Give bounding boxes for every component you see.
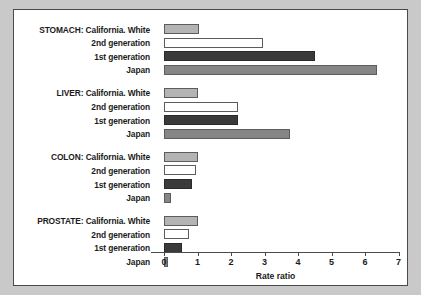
x-tick-5 <box>332 252 333 256</box>
bar-colon-0 <box>164 152 198 162</box>
x-tick-6 <box>365 252 366 256</box>
bar-label-prostate-0: PROSTATE: California. White <box>16 216 150 226</box>
x-tick-label-3: 3 <box>255 257 275 267</box>
x-tick-label-4: 4 <box>288 257 308 267</box>
bar-label-liver-0: LIVER: California. White <box>16 88 150 98</box>
x-tick-2 <box>231 252 232 256</box>
x-tick-4 <box>298 252 299 256</box>
bar-label-colon-2: 1st generation <box>16 180 150 190</box>
bar-stomach-1 <box>164 38 263 48</box>
bar-colon-2 <box>164 179 192 189</box>
x-tick-1 <box>198 252 199 256</box>
bar-liver-2 <box>164 115 238 125</box>
bar-label-prostate-3: Japan <box>16 257 150 267</box>
category-label-column: STOMACH: California. White2nd generation… <box>14 10 150 285</box>
bar-label-liver-3: Japan <box>16 129 150 139</box>
bar-colon-3 <box>164 193 171 203</box>
bar-colon-1 <box>164 165 196 175</box>
bar-label-liver-2: 1st generation <box>16 116 150 126</box>
bar-stomach-2 <box>164 51 315 61</box>
bar-liver-3 <box>164 129 290 139</box>
bar-prostate-0 <box>164 216 198 226</box>
bar-label-prostate-1: 2nd generation <box>16 230 150 240</box>
bar-label-stomach-3: Japan <box>16 65 150 75</box>
bar-label-stomach-1: 2nd generation <box>16 38 150 48</box>
chart-figure-frame: STOMACH: California. White2nd generation… <box>13 9 408 286</box>
bar-label-liver-1: 2nd generation <box>16 102 150 112</box>
bar-liver-1 <box>164 102 238 112</box>
x-tick-7 <box>399 252 400 256</box>
bar-liver-0 <box>164 88 198 98</box>
x-tick-0 <box>164 252 165 256</box>
bar-label-stomach-2: 1st generation <box>16 52 150 62</box>
bar-label-prostate-2: 1st generation <box>16 243 150 253</box>
bar-label-colon-1: 2nd generation <box>16 166 150 176</box>
x-tick-label-1: 1 <box>188 257 208 267</box>
bar-stomach-0 <box>164 24 199 34</box>
x-tick-label-6: 6 <box>355 257 375 267</box>
bar-stomach-3 <box>164 65 377 75</box>
bar-label-colon-0: COLON: California. White <box>16 152 150 162</box>
bar-label-stomach-0: STOMACH: California. White <box>16 25 150 35</box>
x-tick-label-0: 0 <box>154 257 174 267</box>
bar-prostate-1 <box>164 229 189 239</box>
x-axis-title: Rate ratio <box>151 271 400 281</box>
bar-label-colon-3: Japan <box>16 193 150 203</box>
bars-column <box>151 10 407 285</box>
x-tick-3 <box>265 252 266 256</box>
x-tick-label-2: 2 <box>221 257 241 267</box>
x-axis-line <box>151 252 400 253</box>
x-tick-label-7: 7 <box>389 257 409 267</box>
x-tick-label-5: 5 <box>322 257 342 267</box>
plot-area: STOMACH: California. White2nd generation… <box>14 10 407 285</box>
